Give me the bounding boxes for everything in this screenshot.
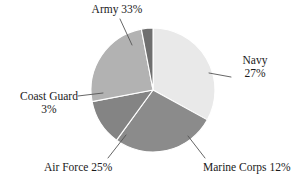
pie-label-coast-guard: Coast Guard 3% — [9, 90, 89, 116]
pie-label-navy-line1: Navy — [232, 54, 278, 67]
pie-label-air-force: Air Force 25% — [44, 161, 112, 174]
pie-label-navy: Navy 27% — [232, 54, 278, 80]
pie-label-air-force-line1: Air Force 25% — [44, 161, 112, 174]
pie-label-marine-corps-line1: Marine Corps 12% — [203, 161, 291, 174]
pie-label-coast-guard-line2: 3% — [9, 103, 89, 116]
pie-chart-figure: Army 33% Navy 27% Marine Corps 12% Air F… — [0, 0, 299, 186]
pie-slices — [91, 28, 215, 152]
pie-label-army-line1: Army 33% — [74, 3, 160, 16]
pie-label-coast-guard-line1: Coast Guard — [9, 90, 89, 103]
pie-label-navy-line2: 27% — [232, 67, 278, 80]
pie-label-marine-corps: Marine Corps 12% — [203, 161, 291, 174]
leader-line-marine-corps — [188, 136, 205, 158]
pie-label-army: Army 33% — [74, 3, 160, 16]
